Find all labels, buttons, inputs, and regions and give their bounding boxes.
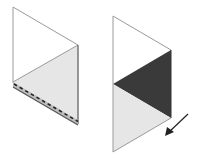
left-panel <box>13 7 78 125</box>
diagram-canvas <box>0 0 198 161</box>
right-panel <box>113 16 171 152</box>
